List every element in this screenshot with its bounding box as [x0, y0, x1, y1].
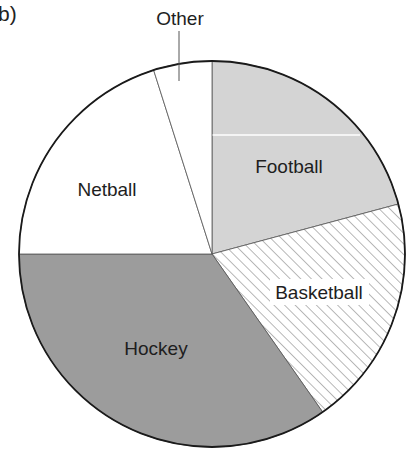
label-netball: Netball [77, 179, 136, 200]
pie-chart: Other Football Basketball Hockey Netball [0, 0, 406, 467]
label-other: Other [156, 8, 204, 29]
label-hockey: Hockey [124, 338, 188, 359]
label-basketball: Basketball [275, 282, 363, 303]
label-football: Football [255, 156, 323, 177]
